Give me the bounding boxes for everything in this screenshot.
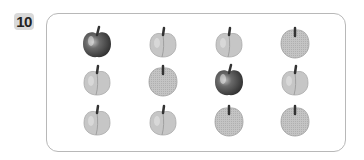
problem-number: 10 bbox=[14, 13, 34, 30]
round-apple-icon bbox=[279, 25, 311, 59]
peach-icon bbox=[147, 103, 179, 137]
peach-icon bbox=[213, 25, 245, 59]
red-apple-icon bbox=[213, 63, 245, 97]
round-apple-icon bbox=[279, 103, 311, 137]
round-apple-icon bbox=[147, 63, 179, 97]
peach-icon bbox=[147, 25, 179, 59]
peach-icon bbox=[81, 103, 113, 137]
red-apple-icon bbox=[81, 25, 113, 59]
round-apple-icon bbox=[213, 103, 245, 137]
peach-icon bbox=[81, 63, 113, 97]
peach-icon bbox=[279, 63, 311, 97]
